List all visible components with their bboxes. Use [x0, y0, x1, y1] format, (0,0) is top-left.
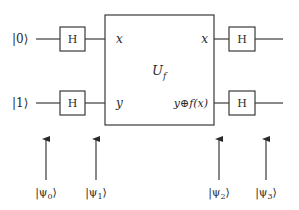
state-label-psi3: |ψ3⟩	[255, 186, 277, 201]
oracle-output-y-xor-fx: y⊕f(x)	[173, 97, 208, 110]
hadamard-label: H	[68, 33, 78, 46]
input-label-1: |1⟩	[12, 96, 28, 110]
state-label-post: ⟩	[53, 186, 57, 199]
state-label-pre: |ψ	[35, 186, 47, 200]
hadamard-label: H	[237, 97, 247, 110]
quantum-circuit-diagram: |0⟩ |1⟩ H H x y x y⊕f(x) Uf H H |ψ0⟩ |ψ	[0, 0, 299, 210]
oracle-input-y: y	[115, 96, 123, 110]
oracle-uf-box: x y x y⊕f(x) Uf	[105, 15, 214, 125]
input-label-0: |0⟩	[12, 32, 28, 46]
hadamard-label: H	[68, 97, 78, 110]
hadamard-gate-top-right: H	[229, 27, 255, 51]
state-label-psi0: |ψ0⟩	[35, 186, 57, 201]
state-label-psi2: |ψ2⟩	[208, 186, 230, 201]
hadamard-gate-bottom-left: H	[60, 91, 85, 115]
state-label-pre: |ψ	[255, 186, 267, 200]
oracle-input-x: x	[116, 32, 123, 46]
state-label-psi1: |ψ1⟩	[85, 186, 107, 201]
state-label-post: ⟩	[273, 186, 277, 199]
state-label-pre: |ψ	[85, 186, 97, 200]
oracle-output-x: x	[201, 32, 208, 46]
hadamard-gate-top-left: H	[60, 27, 85, 51]
state-label-pre: |ψ	[208, 186, 220, 200]
state-label-post: ⟩	[103, 186, 107, 199]
hadamard-gate-bottom-right: H	[229, 91, 255, 115]
hadamard-label: H	[237, 33, 247, 46]
state-label-post: ⟩	[226, 186, 230, 199]
